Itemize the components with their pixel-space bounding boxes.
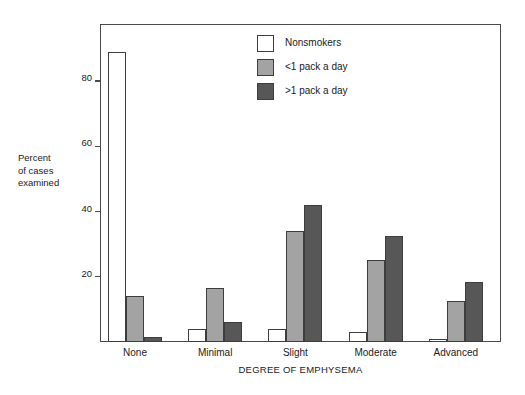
y-axis-tick-label: 60 xyxy=(81,138,92,148)
legend-item-label: <1 pack a day xyxy=(285,61,348,73)
bar xyxy=(447,301,465,342)
bar xyxy=(224,322,242,342)
legend: Nonsmokers<1 pack a day>1 pack a day xyxy=(257,31,348,103)
legend-item-label: >1 pack a day xyxy=(285,85,348,97)
y-axis-tick-label: 40 xyxy=(81,204,92,214)
bar xyxy=(108,52,126,342)
legend-item: Nonsmokers xyxy=(257,31,348,55)
x-axis-tick-label: Minimal xyxy=(175,347,255,359)
legend-swatch xyxy=(257,83,274,100)
x-axis-tick-label: Moderate xyxy=(336,347,416,359)
x-axis-tick-label: None xyxy=(95,347,175,359)
x-axis-tick-label: Advanced xyxy=(416,347,496,359)
bar xyxy=(385,236,403,342)
bar xyxy=(144,337,162,342)
bar xyxy=(304,205,322,342)
bar xyxy=(286,231,304,342)
bar xyxy=(349,332,367,342)
legend-item: <1 pack a day xyxy=(257,55,348,79)
y-axis-tick-label: 20 xyxy=(81,269,92,279)
y-axis-title-line-2: of cases xyxy=(18,165,94,178)
bar xyxy=(268,329,286,342)
bar xyxy=(367,260,385,342)
legend-swatch xyxy=(257,35,274,52)
y-axis-title: Percent of cases examined xyxy=(18,152,94,190)
bar xyxy=(429,339,447,342)
y-axis-tick-label: 80 xyxy=(81,73,92,83)
emphysema-smoking-bar-chart: 20406080 Percent of cases examined NoneM… xyxy=(0,0,525,395)
y-axis-title-line-1: Percent xyxy=(18,152,94,165)
bar xyxy=(206,288,224,342)
legend-swatch xyxy=(257,59,274,76)
bar xyxy=(126,296,144,342)
x-axis-tick-labels: NoneMinimalSlightModerateAdvanced xyxy=(100,347,501,363)
x-axis-tick-label: Slight xyxy=(255,347,335,359)
bar xyxy=(465,282,483,342)
x-axis-title: DEGREE OF EMPHYSEMA xyxy=(100,364,501,375)
legend-item-label: Nonsmokers xyxy=(285,37,341,49)
legend-item: >1 pack a day xyxy=(257,79,348,103)
y-axis-title-line-3: examined xyxy=(18,177,94,190)
bar xyxy=(188,329,206,342)
y-axis: 20406080 xyxy=(0,0,100,395)
